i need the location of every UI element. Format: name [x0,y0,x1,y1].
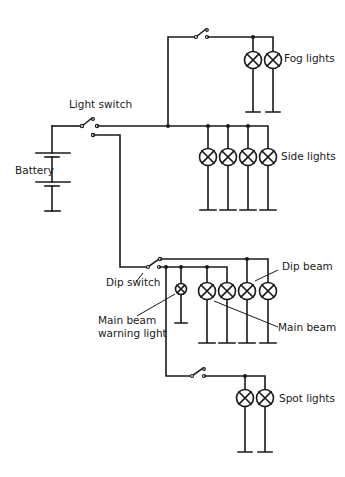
dip-beam-lamp [239,283,256,300]
fog-lights-label: Fog lights [284,52,335,64]
side-lamp [220,149,237,166]
spot-lamp [257,390,274,407]
side-lamp [240,149,257,166]
side-lamp [260,149,277,166]
lighting-circuit-diagram: Light switch Battery Fog lights Side lig… [0,0,345,477]
dip-beam-wire [161,259,268,282]
dip-beam-lamp [260,283,277,300]
circuit-svg [0,0,345,477]
warning-light-leader [137,294,175,316]
side-lamp [200,149,217,166]
main-beam-label: Main beam [278,321,336,333]
dip-beam-leader [255,270,278,281]
main-beam-warning-label-line2: warning light [98,327,167,339]
side-light-feed-wire [98,126,268,148]
main-beam-lamp [199,283,216,300]
main-beam-warning-lamp [175,284,187,324]
side-light-circuit [200,124,277,210]
side-lights-label: Side lights [281,150,336,162]
light-switch-symbol [52,118,99,137]
dip-switch-label: Dip switch [106,276,161,288]
dip-beam-label: Dip beam [282,260,333,272]
main-beam-lamp [219,283,236,300]
fog-lamp [245,52,262,69]
spot-lamp [237,390,254,407]
fog-light-circuit [168,29,282,126]
spot-lights-label: Spot lights [279,392,335,404]
battery-label: Battery [15,164,54,176]
light-switch-label: Light switch [69,98,132,110]
fog-lamp [265,52,282,69]
main-beam-warning-label-line1: Main beam [98,314,156,326]
main-beam-wire [160,267,227,282]
headlamp-feed-wire [94,135,147,267]
